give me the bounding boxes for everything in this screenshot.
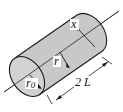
label-x: x	[70, 17, 77, 31]
dimension-arrow-left-icon	[56, 95, 62, 100]
label-length: 2 L	[75, 75, 91, 89]
dimension-arrow-right-icon	[102, 62, 108, 67]
label-r0-sub: 0	[31, 80, 36, 90]
label-r: r	[54, 54, 59, 68]
cylinder-diagram: x r r0 2 L	[0, 0, 123, 112]
